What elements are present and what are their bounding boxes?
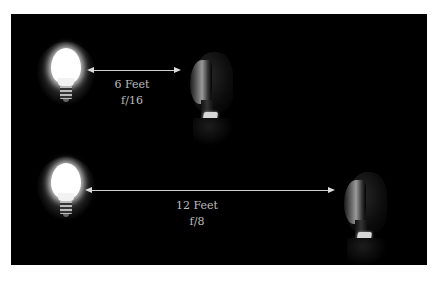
distance-label: 6 Feet: [92, 77, 172, 92]
light-bulb-icon: [36, 157, 96, 237]
arrowhead-left-icon: [85, 187, 92, 193]
subject-coat: [347, 238, 387, 265]
distance-arrow-6ft: [89, 70, 179, 71]
aperture-label: f/16: [92, 93, 172, 108]
subject-face: [344, 180, 366, 224]
distance-label: 12 Feet: [157, 198, 237, 213]
aperture-label: f/8: [157, 214, 237, 229]
diagram-panel: 6 Feet f/16 12 Feet f/8: [11, 14, 427, 265]
subject-face: [190, 60, 212, 104]
arrowhead-right-icon: [174, 67, 181, 73]
portrait-subject: [187, 52, 237, 144]
bulb-neck: [58, 78, 74, 86]
arrowhead-left-icon: [87, 67, 94, 73]
light-bulb-icon: [36, 42, 96, 122]
portrait-subject: [341, 172, 391, 264]
bulb-base: [60, 201, 72, 214]
arrowhead-right-icon: [328, 187, 335, 193]
distance-arrow-12ft: [87, 190, 333, 191]
bulb-base: [60, 86, 72, 99]
subject-coat: [193, 118, 233, 146]
bulb-neck: [58, 193, 74, 201]
